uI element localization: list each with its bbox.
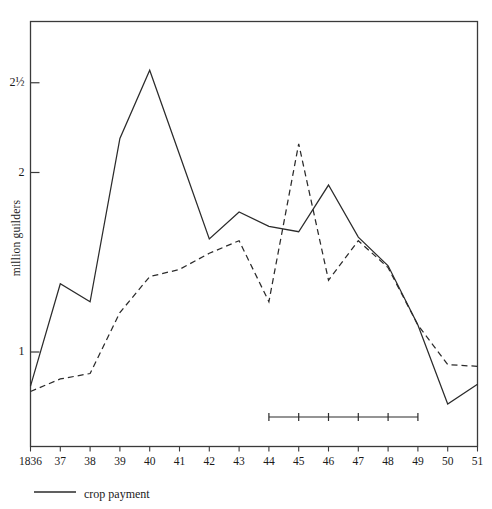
x-tick-marks (31, 447, 478, 452)
range-indicator-bar (269, 413, 418, 421)
y-tick-label: 1 (0, 344, 25, 359)
y-tick-label: 2½ (0, 75, 25, 90)
x-tick-label: 51 (458, 455, 492, 467)
plot-frame (31, 22, 478, 447)
legend-label-crop-payment: crop payment (84, 487, 150, 502)
chart-canvas (0, 0, 492, 509)
y-tick-marks (31, 83, 40, 352)
series-line-crop-payment (31, 70, 478, 404)
y-tick-label: 2 (0, 165, 25, 180)
series-line-dashed (31, 144, 478, 392)
y-axis-title: million guilders (10, 178, 22, 298)
chart-figure: million guilders 2½21 183637383940414243… (0, 0, 492, 509)
